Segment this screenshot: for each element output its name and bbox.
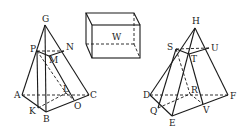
left-pyramid: G P N M A C B K L O	[13, 14, 97, 124]
label-S: S	[167, 42, 173, 52]
rectangular-box: W	[86, 13, 140, 58]
label-L: L	[63, 84, 69, 94]
label-M: M	[49, 55, 58, 65]
label-R: R	[191, 85, 198, 95]
label-C: C	[90, 90, 97, 100]
right-pyramid: H S U T D F E Q R V	[143, 16, 236, 128]
label-U: U	[211, 43, 219, 53]
label-V: V	[202, 105, 210, 115]
label-D: D	[143, 90, 150, 100]
label-K: K	[29, 106, 36, 116]
label-P: P	[30, 44, 36, 54]
label-H: H	[192, 16, 200, 26]
label-E: E	[169, 118, 176, 128]
label-O: O	[74, 101, 81, 111]
label-G: G	[42, 14, 49, 24]
label-Q: Q	[150, 106, 157, 116]
label-W: W	[112, 32, 122, 42]
geometry-figures: G P N M A C B K L O W	[0, 0, 243, 135]
label-F: F	[230, 91, 236, 101]
label-N: N	[66, 42, 74, 52]
label-A: A	[13, 90, 21, 100]
label-B: B	[43, 114, 50, 124]
label-T: T	[191, 54, 197, 64]
